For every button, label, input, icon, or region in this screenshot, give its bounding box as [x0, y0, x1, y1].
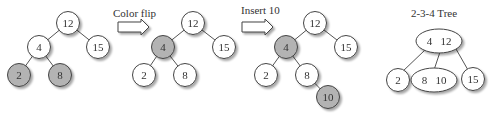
node-key: 12 — [188, 17, 199, 29]
node-12: 12 — [57, 12, 80, 35]
right-arrow-icon — [118, 19, 149, 35]
arrow-insert-10: Insert 10 — [241, 4, 280, 35]
node-keys: 4 12 — [427, 35, 452, 47]
node-8: 8 — [296, 64, 319, 87]
node-key: 12 — [310, 17, 321, 29]
node-10-red: 10 — [317, 86, 340, 109]
node-2: 2 — [133, 64, 156, 87]
node-key: 10 — [323, 91, 335, 103]
node-key: 12 — [63, 17, 74, 29]
node-key: 8 — [182, 69, 188, 81]
node-key: 4 — [160, 41, 166, 53]
node-2: 2 — [255, 64, 278, 87]
node-2-red: 2 — [8, 64, 31, 87]
tree-234: 2-3-4 Tree 4 12 2 8 10 15 — [387, 7, 485, 92]
node-keys: 8 10 — [422, 74, 447, 86]
tree-initial: 12 4 15 2 8 — [8, 12, 110, 87]
node-15: 15 — [213, 36, 236, 59]
node-key: 2 — [141, 69, 147, 81]
node-key: 2 — [16, 69, 22, 81]
red-black-tree-diagram: 12 4 15 2 8 Color flip — [0, 0, 493, 116]
arrow-label: Insert 10 — [241, 4, 280, 16]
arrow-color-flip: Color flip — [113, 7, 157, 35]
tree-after-color-flip: 12 4 15 2 8 — [133, 12, 236, 87]
node-key: 15 — [341, 41, 353, 53]
node-key: 8 — [304, 69, 310, 81]
node-8-red: 8 — [49, 64, 72, 87]
node-15: 15 — [87, 36, 110, 59]
node-8-10: 8 10 — [411, 68, 457, 92]
node-2: 2 — [387, 69, 410, 92]
node-12: 12 — [304, 12, 327, 35]
node-keys: 2 — [395, 74, 401, 86]
node-4-red: 4 — [152, 36, 175, 59]
node-15: 15 — [335, 36, 358, 59]
node-key: 15 — [93, 41, 105, 53]
node-4-12: 4 12 — [416, 29, 462, 53]
node-4-red: 4 — [275, 36, 298, 59]
right-arrow-icon — [242, 19, 273, 35]
node-4: 4 — [28, 36, 51, 59]
node-key: 15 — [219, 41, 231, 53]
node-8: 8 — [174, 64, 197, 87]
node-keys: 15 — [468, 73, 480, 85]
node-15: 15 — [462, 68, 485, 91]
tree-234-title: 2-3-4 Tree — [411, 7, 457, 19]
node-key: 8 — [57, 69, 63, 81]
node-key: 4 — [283, 41, 289, 53]
node-key: 2 — [263, 69, 269, 81]
arrow-label: Color flip — [113, 7, 157, 19]
node-key: 4 — [36, 41, 42, 53]
node-12: 12 — [182, 12, 205, 35]
